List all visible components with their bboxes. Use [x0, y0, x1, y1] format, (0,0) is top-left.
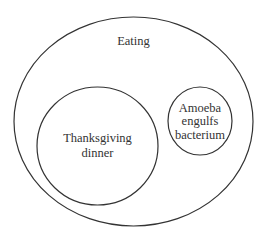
venn-diagram: Eating Thanksgiving dinner Amoeba engulf… [0, 0, 264, 237]
thanksgiving-label-line2: dinner [82, 146, 115, 160]
amoeba-label-line3: bacterium [175, 128, 225, 142]
thanksgiving-label-line1: Thanksgiving [63, 131, 132, 145]
amoeba-label-line2: engulfs [182, 114, 219, 128]
outer-set-label: Eating [117, 34, 150, 48]
amoeba-label-line1: Amoeba [179, 101, 222, 115]
